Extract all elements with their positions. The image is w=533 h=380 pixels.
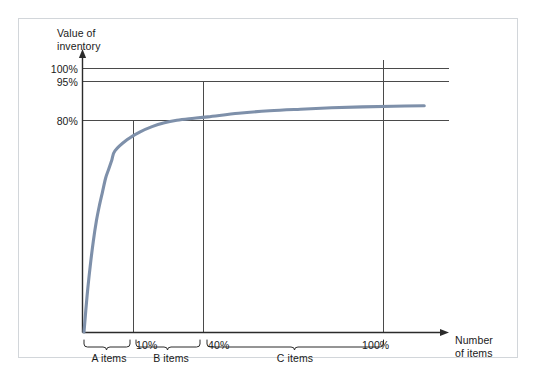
x-axis-arrowhead	[440, 329, 449, 336]
segment-label-b-items: B items	[141, 352, 201, 365]
y-axis	[79, 49, 86, 333]
y-tick-label-95pct: 95%	[40, 76, 78, 89]
x-tick-label-40pct: 40%	[208, 339, 229, 352]
y-axis-title: Value of inventory	[57, 27, 101, 52]
vertical-reference-lines	[134, 60, 384, 332]
segment-label-a-items: A items	[86, 352, 132, 365]
pareto-curve	[84, 106, 424, 332]
y-tick-label-80pct: 80%	[40, 115, 78, 128]
segment-label-c-items: C items	[235, 352, 355, 365]
brace-c-items	[207, 340, 384, 350]
x-axis	[83, 329, 450, 336]
chart-plot-area	[0, 0, 533, 380]
chart-canvas: Value of inventory Number of items 100% …	[0, 0, 533, 380]
horizontal-gridlines	[82, 69, 449, 121]
brace-a-items	[84, 340, 130, 350]
x-tick-label-100pct: 100%	[362, 339, 389, 352]
x-tick-label-10pct: 10%	[136, 339, 157, 352]
x-axis-title: Number of items	[455, 334, 493, 359]
y-tick-label-100pct: 100%	[40, 63, 78, 76]
segment-braces	[84, 340, 384, 350]
